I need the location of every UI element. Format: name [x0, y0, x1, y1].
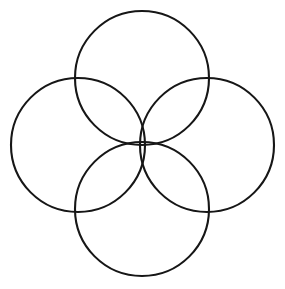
four-circles-figure [0, 0, 285, 289]
figure-root [0, 0, 285, 289]
